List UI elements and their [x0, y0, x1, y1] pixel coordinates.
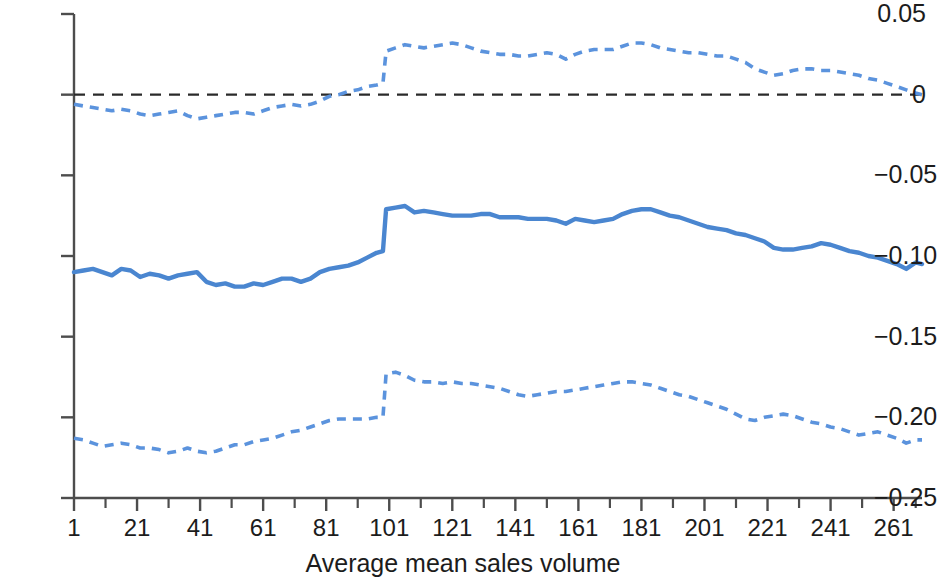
x-axis-title: Average mean sales volume [0, 551, 926, 576]
estimate-line [74, 206, 922, 287]
y-tick-label: −0.20 [874, 404, 926, 429]
x-tick-label: 241 [811, 516, 851, 540]
x-tick-label: 101 [369, 516, 409, 540]
x-tick-label: 41 [187, 516, 214, 540]
x-tick-label: 181 [621, 516, 661, 540]
x-tick-label: 161 [558, 516, 598, 540]
y-tick-label: −0.25 [874, 485, 926, 510]
lower-confidence-line [74, 372, 922, 453]
x-tick-label: 1 [67, 516, 80, 540]
x-axis-ticks [74, 498, 916, 511]
x-tick-label: 141 [495, 516, 535, 540]
y-tick-label: −0.05 [874, 162, 926, 187]
x-tick-label: 221 [748, 516, 788, 540]
y-tick-label: 0.05 [874, 1, 926, 26]
x-tick-label: 21 [124, 516, 151, 540]
y-axis-ticks [61, 14, 74, 498]
y-tick-label: −0.15 [874, 324, 926, 349]
upper-confidence-line [74, 43, 922, 119]
x-tick-label: 81 [313, 516, 340, 540]
y-tick-label: −0.10 [874, 243, 926, 268]
x-tick-label: 61 [250, 516, 277, 540]
x-tick-label: 261 [874, 516, 914, 540]
y-tick-label: 0 [874, 82, 926, 107]
x-tick-label: 121 [432, 516, 472, 540]
x-tick-label: 201 [684, 516, 724, 540]
